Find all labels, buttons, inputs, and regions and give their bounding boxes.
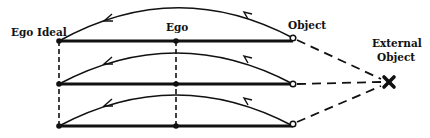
ego-ideal-diagram: Ego Ideal Ego Object External Object bbox=[0, 0, 430, 138]
object-node-3 bbox=[290, 121, 296, 127]
arrow-icon bbox=[244, 56, 252, 63]
arrow-icon bbox=[244, 98, 252, 105]
label-ego: Ego bbox=[166, 21, 188, 33]
label-external-object-line1: External bbox=[372, 37, 422, 49]
external-object-x-icon bbox=[384, 77, 394, 87]
external-link-1 bbox=[297, 40, 381, 79]
label-object: Object bbox=[288, 19, 326, 31]
ego-dot-2 bbox=[173, 81, 179, 87]
ego-dot-3 bbox=[173, 123, 179, 129]
ego-ideal-dot-3 bbox=[56, 123, 62, 129]
label-ego-ideal: Ego Ideal bbox=[11, 26, 67, 38]
object-node-1 bbox=[290, 35, 296, 41]
label-external-object-line2: Object bbox=[377, 51, 415, 63]
object-node-2 bbox=[290, 81, 296, 87]
external-link-3 bbox=[297, 86, 381, 122]
ego-dot-1 bbox=[173, 38, 179, 44]
ego-ideal-dot-1 bbox=[56, 38, 62, 44]
ego-ideal-dot-2 bbox=[56, 81, 62, 87]
external-link-2 bbox=[297, 82, 381, 84]
